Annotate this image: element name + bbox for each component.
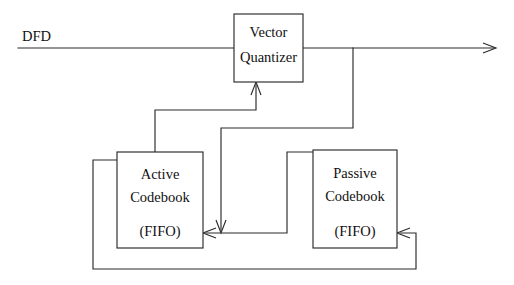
active-codebook-label-line2: Codebook [130, 189, 190, 205]
passive-codebook-label-line1: Passive [333, 165, 377, 181]
diagram-svg: Vector Quantizer Active Codebook (FIFO) … [0, 0, 514, 285]
wire-passive-to-active [206, 152, 313, 233]
block-diagram-canvas: Vector Quantizer Active Codebook (FIFO) … [0, 0, 514, 285]
active-codebook-label-line1: Active [141, 166, 180, 182]
dfd-input-label: DFD [22, 28, 51, 44]
vector-quantizer-label-line1: Vector [250, 24, 288, 40]
wire-active-to-vq [155, 85, 256, 152]
vector-quantizer-label-line2: Quantizer [240, 49, 297, 65]
active-codebook-label-fifo: (FIFO) [139, 223, 180, 240]
passive-codebook-label-line2: Codebook [325, 188, 385, 204]
passive-codebook-label-fifo: (FIFO) [334, 223, 375, 240]
